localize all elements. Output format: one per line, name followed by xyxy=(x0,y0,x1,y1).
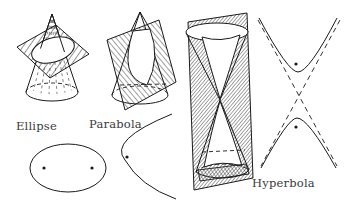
ellipse-focus-left xyxy=(42,166,45,169)
label-hyperbola: Hyperbola xyxy=(252,176,315,190)
hyperbola-focus-upper xyxy=(294,62,297,65)
construction-double-cone-hyperbola xyxy=(186,13,253,190)
conic-sections-canvas: Ellipse Parabola Hyperbola xyxy=(0,0,353,201)
hyperbola-focus-lower xyxy=(294,125,297,128)
parabola-focus xyxy=(125,155,128,158)
ellipse-focus-right xyxy=(90,166,93,169)
ellipse-outline xyxy=(30,144,106,192)
result-curve-ellipse xyxy=(30,144,106,192)
label-parabola: Parabola xyxy=(89,117,142,131)
label-ellipse: Ellipse xyxy=(16,119,57,133)
conic-sections-figure: Ellipse Parabola Hyperbola xyxy=(0,0,353,201)
